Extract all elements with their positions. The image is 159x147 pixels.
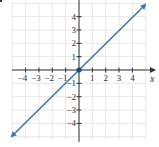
cropped-label-mark [0,0,2,2]
y-tick-label: 1 [72,52,77,62]
x-tick-label: −3 [31,73,41,83]
x-tick-label: 4 [130,73,135,83]
y-tick-label: 3 [72,25,77,35]
origin-point [76,67,81,72]
x-tick-label: 3 [117,73,122,83]
y-tick-label: −3 [66,105,76,115]
y-tick-label: 4 [72,12,77,22]
x-tick-label: −2 [45,73,55,83]
x-tick-label: 2 [103,73,108,83]
y-tick-label: −2 [66,92,76,102]
x-tick-label: −4 [18,73,28,83]
x-tick-label: 1 [90,73,95,83]
x-axis-label: x [149,73,155,84]
line-graph: −4−3−2−11234−4−3−2−11234 x [0,0,159,147]
y-tick-label: −1 [66,78,76,88]
y-tick-label: 2 [72,38,77,48]
y-tick-label: −4 [66,118,76,128]
